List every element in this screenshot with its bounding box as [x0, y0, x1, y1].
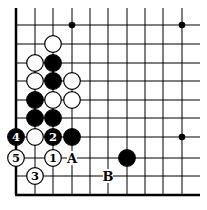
move-number-5: 5 — [12, 151, 20, 165]
point-label-b: B — [103, 169, 114, 184]
black-stone — [27, 92, 44, 109]
move-number-1: 1 — [49, 151, 57, 165]
black-stone — [27, 110, 44, 127]
go-board-diagram: AB42513 — [0, 0, 207, 210]
move-number-4: 4 — [12, 130, 20, 144]
black-stone — [45, 55, 62, 72]
white-stone — [64, 73, 81, 90]
white-stone — [27, 129, 44, 146]
point-label-a: A — [66, 151, 78, 166]
white-stone — [45, 92, 62, 109]
star-point — [179, 134, 186, 141]
white-stone — [27, 73, 44, 90]
star-point — [69, 22, 76, 29]
white-stone — [45, 36, 62, 53]
black-stone — [119, 150, 136, 167]
move-number-3: 3 — [31, 169, 39, 183]
black-stone — [45, 110, 62, 127]
move-number-2: 2 — [49, 130, 57, 144]
white-stone — [64, 92, 81, 109]
black-stone — [45, 73, 62, 90]
black-stone — [64, 129, 81, 146]
white-stone — [27, 55, 44, 72]
star-point — [179, 22, 186, 29]
